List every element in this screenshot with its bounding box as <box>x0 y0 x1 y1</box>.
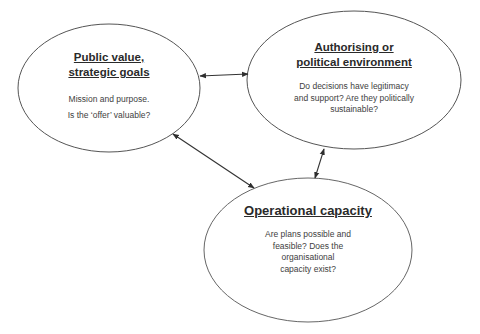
description-line: Mission and purpose. <box>29 91 189 107</box>
description-line: and support? Are they politically <box>274 93 434 105</box>
node-title: Operational capacity <box>222 203 394 219</box>
arrow-public-authorising <box>200 74 248 76</box>
node-public-value: Public value, strategic goals Mission an… <box>29 50 189 123</box>
arrow-authorising-operational <box>315 149 324 178</box>
title-line: Operational capacity <box>222 203 394 219</box>
title-line: strategic goals <box>29 65 189 80</box>
description-line: capacity exist? <box>252 264 364 276</box>
description-line: organisational <box>252 252 364 264</box>
description-line: Are plans possible and <box>252 229 364 241</box>
description-line: feasible? Does the <box>252 241 364 253</box>
node-operational-capacity: Operational capacity Are plans possible … <box>252 203 364 275</box>
node-title: Public value, strategic goals <box>29 50 189 80</box>
title-line: Authorising or <box>274 40 434 55</box>
description-line: Is the ‘offer’ valuable? <box>29 107 189 123</box>
description-line: Do decisions have legitimacy <box>274 81 434 93</box>
node-authorising-environment: Authorising or political environment Do … <box>274 40 434 116</box>
node-description: Do decisions have legitimacy and support… <box>274 81 434 116</box>
description-line: sustainable? <box>274 104 434 116</box>
node-description: Mission and purpose. Is the ‘offer’ valu… <box>29 91 189 123</box>
arrow-public-operational <box>173 134 254 188</box>
title-line: political environment <box>274 55 434 70</box>
node-description: Are plans possible and feasible? Does th… <box>252 229 364 275</box>
title-line: Public value, <box>29 50 189 65</box>
node-title: Authorising or political environment <box>274 40 434 70</box>
